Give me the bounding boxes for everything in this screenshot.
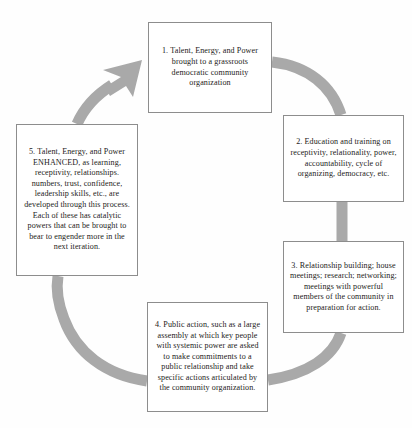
connector-arc-3-to-4 <box>268 333 341 380</box>
connector-arc-4-to-5 <box>57 276 147 381</box>
arrowhead-icon <box>103 60 142 97</box>
connector-arc-5-to-1 <box>77 60 142 124</box>
stage-4-text: 4. Public action, such as a large assemb… <box>148 320 267 394</box>
stage-box-3: 3. Relationship building; house meetings… <box>283 241 404 333</box>
stage-box-1: 1. Talent, Energy, and Power brought to … <box>148 22 272 113</box>
stage-5-text: 5. Talent, Energy, and Power ENHANCED, a… <box>17 147 137 252</box>
cycle-diagram: 1. Talent, Energy, and Power brought to … <box>0 0 412 428</box>
connector-arc-1-to-2 <box>272 62 341 115</box>
stage-3-text: 3. Relationship building; house meetings… <box>284 261 403 314</box>
stage-box-4: 4. Public action, such as a large assemb… <box>147 302 268 412</box>
stage-box-5: 5. Talent, Energy, and Power ENHANCED, a… <box>16 124 138 276</box>
stage-2-text: 2. Education and training on receptivity… <box>284 137 403 179</box>
stage-1-text: 1. Talent, Energy, and Power brought to … <box>149 46 271 88</box>
connector-arc-5-to-1-shaft <box>77 85 112 124</box>
stage-box-2: 2. Education and training on receptivity… <box>283 115 404 202</box>
